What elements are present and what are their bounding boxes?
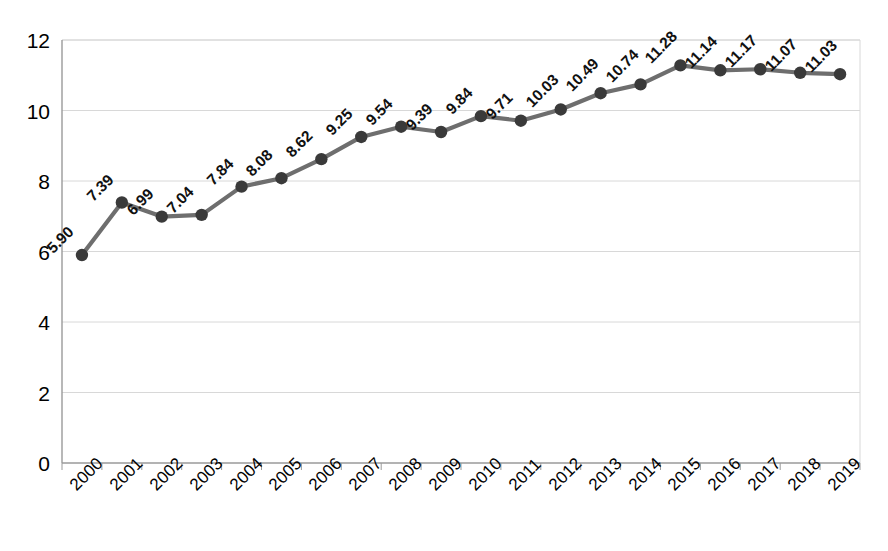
line-chart: 024681012 200020012002200320042005200620… bbox=[0, 0, 888, 551]
y-axis-tick-label: 2 bbox=[4, 382, 50, 403]
data-point-marker bbox=[515, 115, 527, 127]
data-point-marker bbox=[235, 180, 247, 192]
data-point-marker bbox=[794, 67, 806, 79]
data-point-marker bbox=[76, 249, 88, 261]
y-axis-tick-label: 12 bbox=[4, 30, 50, 51]
data-point-marker bbox=[355, 131, 367, 143]
data-point-marker bbox=[275, 172, 287, 184]
data-point-marker bbox=[555, 103, 567, 115]
y-axis-tick-label: 0 bbox=[4, 453, 50, 474]
data-point-marker bbox=[834, 68, 846, 80]
data-point-marker bbox=[195, 209, 207, 221]
y-axis-tick-label: 10 bbox=[4, 100, 50, 121]
y-axis-tick-label: 4 bbox=[4, 312, 50, 333]
data-point-marker bbox=[315, 153, 327, 165]
data-point-marker bbox=[634, 78, 646, 90]
data-point-marker bbox=[714, 64, 726, 76]
data-point-marker bbox=[156, 210, 168, 222]
y-axis-tick-label: 8 bbox=[4, 171, 50, 192]
data-point-marker bbox=[594, 87, 606, 99]
data-point-marker bbox=[435, 126, 447, 138]
